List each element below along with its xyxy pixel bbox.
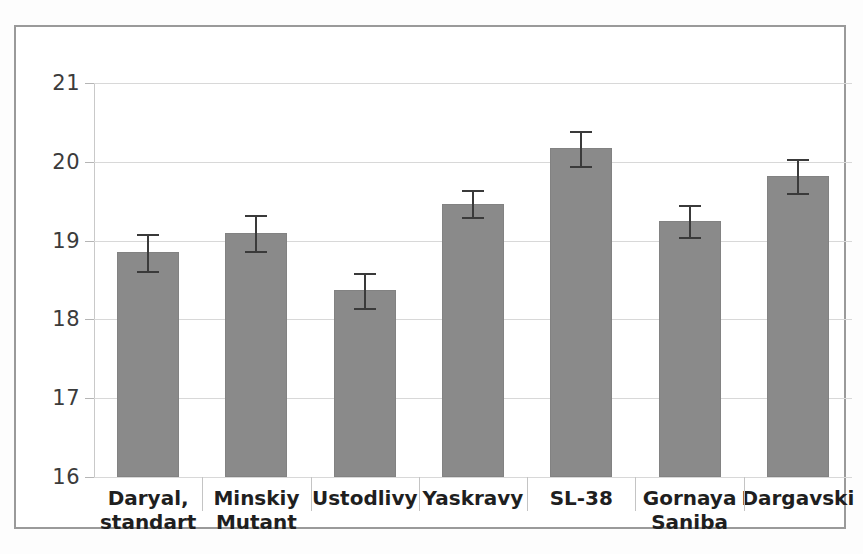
error-bar-cap-upper	[137, 234, 159, 236]
y-tick-mark-16	[85, 477, 94, 478]
bar	[117, 252, 179, 477]
error-bar-line	[147, 234, 149, 270]
bar-slot	[311, 83, 419, 477]
x-tick-label-line2: Saniba	[643, 511, 737, 535]
y-tick-mark-20	[85, 162, 94, 163]
error-bar-line	[689, 205, 691, 237]
y-tick-label: 20	[52, 150, 80, 174]
error-bar-cap-lower	[570, 166, 592, 168]
y-tick-label: 16	[52, 465, 80, 489]
category-separator	[744, 477, 745, 511]
error-bar-line	[797, 159, 799, 194]
error-bar-cap-upper	[570, 131, 592, 133]
x-tick-label: Yaskravy	[423, 487, 524, 511]
y-tick-mark-19	[85, 241, 94, 242]
bar	[550, 148, 612, 477]
bar-slot	[635, 83, 743, 477]
y-tick-label: 19	[52, 229, 80, 253]
category-separator	[635, 477, 636, 511]
plot-area: 161718192021 Daryal,standartMinskiyMutan…	[94, 83, 852, 477]
y-tick-mark-17	[85, 398, 94, 399]
bar	[225, 233, 287, 477]
y-tick-label: 17	[52, 386, 80, 410]
y-tick-mark-21	[85, 83, 94, 84]
x-tick-label-line1: Dargavski	[741, 486, 854, 510]
x-tick-label-line1: Daryal,	[108, 486, 189, 510]
x-tick-label-line2: Mutant	[213, 511, 299, 535]
bar	[767, 176, 829, 477]
error-bar-line	[580, 131, 582, 166]
gridline-16	[94, 477, 852, 478]
bar-slot	[419, 83, 527, 477]
bar	[334, 290, 396, 477]
x-tick-label-line1: Yaskravy	[423, 486, 524, 510]
error-bar-cap-lower	[137, 271, 159, 273]
error-bar-line	[364, 273, 366, 308]
x-tick-label-line1: Ustodlivy	[312, 486, 418, 510]
x-tick-label-line1: Gornaya	[643, 486, 737, 510]
error-bar-line	[255, 215, 257, 251]
error-bar-line	[472, 190, 474, 217]
bar-slot	[744, 83, 852, 477]
bar-slot	[527, 83, 635, 477]
bar	[442, 204, 504, 477]
y-tick-label: 21	[52, 71, 80, 95]
y-tick-label: 18	[52, 307, 80, 331]
error-bar-cap-upper	[462, 190, 484, 192]
chart-figure: 161718192021 Daryal,standartMinskiyMutan…	[0, 0, 863, 554]
x-tick-label-line1: SL-38	[550, 486, 613, 510]
error-bar-cap-lower	[354, 308, 376, 310]
error-bar-cap-lower	[787, 193, 809, 195]
y-tick-mark-18	[85, 319, 94, 320]
category-separator	[311, 477, 312, 511]
bar-slot	[202, 83, 310, 477]
error-bar-cap-lower	[462, 217, 484, 219]
x-tick-label: GornayaSaniba	[643, 487, 737, 534]
error-bar-cap-upper	[679, 205, 701, 207]
category-separator	[202, 477, 203, 511]
chart-frame: 161718192021 Daryal,standartMinskiyMutan…	[14, 25, 846, 529]
error-bar-cap-upper	[354, 273, 376, 275]
error-bar-cap-lower	[679, 237, 701, 239]
error-bar-cap-upper	[787, 159, 809, 161]
x-tick-label-line2: standart	[100, 511, 196, 535]
x-tick-label-line1: Minskiy	[213, 486, 299, 510]
x-tick-label: MinskiyMutant	[213, 487, 299, 534]
error-bar-cap-lower	[245, 251, 267, 253]
x-tick-label: Dargavski	[741, 487, 854, 511]
x-tick-label: Daryal,standart	[100, 487, 196, 534]
error-bar-cap-upper	[245, 215, 267, 217]
category-separator	[419, 477, 420, 511]
category-separator	[527, 477, 528, 511]
x-tick-label: Ustodlivy	[312, 487, 418, 511]
bar	[659, 221, 721, 477]
bar-slot	[94, 83, 202, 477]
x-tick-label: SL-38	[550, 487, 613, 511]
